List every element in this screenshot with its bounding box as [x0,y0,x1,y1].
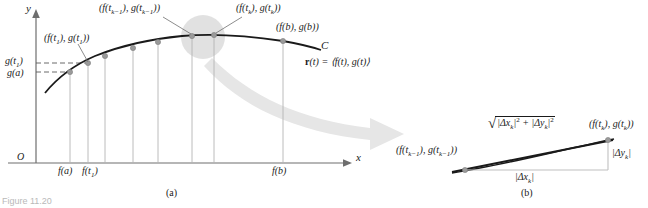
y-axis-label: y [26,3,31,14]
x-tick-label-f-a: f(a) [58,166,72,176]
point-label-t1: (f(t1), g(t1)) [44,33,89,46]
point-label-b: (f(b), g(b)) [276,22,319,32]
x-axis-label: x [356,152,361,163]
x-tick-label-f-t1: f(t1) [82,166,98,179]
origin-label: O [17,152,24,162]
panel-b-graphics [452,137,614,173]
point-f-a [67,69,72,74]
point-4 [155,39,160,44]
point-label-tk: (f(tk), g(tk)) [236,3,281,16]
x-tick-label-f-b: f(b) [272,166,286,176]
transition-arrow-icon [204,58,404,150]
vector-function-label: r(t) = ⟨f(t), g(t)⟩ [305,57,370,67]
delta-y-label: |Δyk| [612,148,631,161]
panel-b-caption: (b) [521,187,533,198]
point-label-tk-minus-1: (f(tk−1), g(tk−1)) [99,3,160,16]
radical-icon: √ [488,115,496,131]
curve-label-c: C [321,40,328,51]
delta-x-label: |Δxk| [515,172,534,185]
panel-b-left-point-label: (f(tk−1), g(tk−1)) [396,145,457,158]
y-tick-label-g-a: g(a) [7,68,24,78]
figure-number-caption: Figure 11.20 [2,196,52,206]
panel-a-caption: (a) [166,187,177,198]
x-axis-arrowhead [343,159,352,167]
point-f-b [280,38,285,43]
point-tk-minus-1 [189,33,194,38]
point-3 [130,45,135,50]
point-tk [211,32,216,37]
magnifier-highlight-circle [181,15,225,59]
panel-b-right-point-label: (f(tk), g(tk)) [589,119,634,132]
figure-arc-length-parametric: y x O g(t1) g(a) f(a) f(t1) f(b) C r(t) … [0,0,648,208]
point-2 [102,53,107,58]
y-axis-arrowhead [32,9,40,18]
point-tk-minus-1-zoom [462,167,467,172]
point-tk-zoom [605,137,610,142]
chord-length-label: √|Δxk|2 + |Δyk|2 [488,114,555,131]
